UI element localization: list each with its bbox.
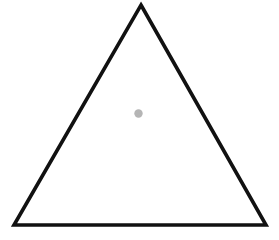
canvas-background [0, 0, 279, 240]
figure-canvas [0, 0, 279, 240]
triangle-figure [0, 0, 279, 240]
interior-dot [134, 109, 142, 117]
